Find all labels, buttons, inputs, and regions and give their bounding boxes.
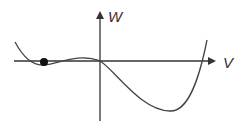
ball-marker: [40, 58, 48, 66]
potential-diagram: W V: [0, 0, 243, 128]
w-axis-label: W: [108, 9, 122, 24]
v-axis-label: V: [223, 55, 233, 70]
potential-curve: [15, 40, 207, 111]
